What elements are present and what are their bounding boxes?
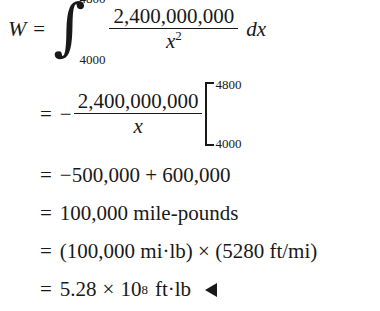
- equals-sign-4: =: [40, 203, 60, 224]
- differential-dx: dx: [238, 19, 266, 40]
- evaluation-upper-limit: 4800: [215, 78, 241, 91]
- antiderivative-fraction: 2,400,000,000 x: [74, 91, 203, 137]
- equation-line-5: = (100,000 mi·lb) × (5280 ft/mi): [40, 241, 317, 262]
- evaluation-bracket: [205, 82, 214, 146]
- denominator-exponent: 2: [175, 28, 182, 43]
- antiderivative-denominator: x: [129, 114, 146, 137]
- equals-sign-6: =: [40, 279, 60, 300]
- equation-line-3: = −500,000 + 600,000: [40, 165, 231, 186]
- equation-line-1: W = ∫ 4800 4000 2,400,000,000 x2 dx: [8, 0, 266, 62]
- final-mantissa: 5.28: [60, 279, 97, 300]
- equals-sign-3: =: [40, 165, 60, 186]
- evaluation-bracket-foot: [205, 144, 214, 146]
- evaluation-lower-limit: 4000: [215, 137, 241, 150]
- antiderivative-numerator: 2,400,000,000: [74, 91, 203, 113]
- evaluation-limits: 4800 4000: [215, 78, 241, 150]
- equation-line-2: = − 2,400,000,000 x 4800 4000: [40, 78, 241, 150]
- multiplication-sign: ×: [97, 279, 121, 300]
- integral-upper-limit: 4800: [79, 0, 105, 5]
- integral-sign: ∫: [53, 0, 85, 58]
- evaluation-bracket-group: 4800 4000: [204, 78, 241, 150]
- result-mile-pounds: 100,000 mile-pounds: [60, 203, 239, 224]
- integrand-fraction: 2,400,000,000 x2: [109, 6, 238, 52]
- power-base: 10: [120, 279, 141, 300]
- math-solution-page: W = ∫ 4800 4000 2,400,000,000 x2 dx = − …: [0, 0, 380, 311]
- sum-expression: −500,000 + 600,000: [60, 165, 231, 186]
- equals-sign-5: =: [40, 241, 60, 262]
- unit-conversion-expression: (100,000 mi·lb) × (5280 ft/mi): [60, 241, 317, 262]
- equation-line-6: = 5.28 × 108 ft·lb: [40, 279, 217, 300]
- equation-line-4: = 100,000 mile-pounds: [40, 203, 238, 224]
- end-of-solution-triangle-icon: [205, 283, 217, 297]
- integral-lower-limit: 4000: [79, 53, 105, 66]
- denominator-base: x: [166, 29, 175, 53]
- integrand-numerator: 2,400,000,000: [109, 6, 238, 28]
- integrand-denominator: x2: [162, 29, 186, 52]
- integral-expression: ∫ 4800 4000: [53, 0, 105, 60]
- equals-sign-2: =: [40, 104, 60, 125]
- equals-sign-1: =: [33, 19, 53, 40]
- variable-W: W: [8, 18, 33, 40]
- final-units: ft·lb: [148, 279, 191, 300]
- negative-sign: −: [60, 104, 74, 125]
